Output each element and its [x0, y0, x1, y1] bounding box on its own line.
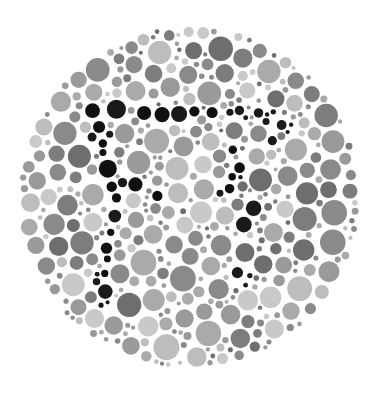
mosaic-dot: [126, 193, 141, 208]
figure-dot: [99, 160, 117, 178]
mosaic-dot: [197, 225, 201, 229]
mosaic-dot: [315, 285, 329, 299]
mosaic-dot: [164, 182, 169, 187]
mosaic-dot: [85, 84, 102, 101]
mosaic-dot: [315, 176, 322, 183]
mosaic-dot: [136, 138, 143, 145]
mosaic-dot: [200, 246, 207, 253]
mosaic-dot: [207, 360, 212, 365]
mosaic-dot: [265, 85, 271, 91]
figure-dot: [171, 106, 187, 122]
mosaic-dot: [164, 308, 170, 314]
mosaic-dot: [216, 344, 224, 352]
mosaic-dot: [225, 226, 229, 230]
figure-dot: [93, 121, 105, 133]
mosaic-dot: [277, 132, 285, 140]
mosaic-dot: [287, 72, 304, 89]
mosaic-dot: [257, 228, 263, 234]
mosaic-dot: [241, 315, 254, 328]
mosaic-dot: [319, 261, 340, 282]
mosaic-dot: [241, 136, 248, 143]
mosaic-dot: [274, 312, 280, 318]
mosaic-dot: [159, 317, 172, 330]
mosaic-dot: [123, 74, 131, 82]
mosaic-dot: [197, 27, 209, 39]
mosaic-dot: [255, 221, 259, 225]
figure-dot: [254, 108, 263, 117]
mosaic-dot: [85, 309, 104, 328]
mosaic-dot: [123, 331, 128, 336]
mosaic-dot: [175, 309, 193, 327]
mosaic-dot: [104, 316, 123, 335]
mosaic-dot: [116, 174, 120, 178]
mosaic-dot: [299, 117, 310, 128]
mosaic-dot: [247, 38, 252, 43]
mosaic-dot: [287, 276, 312, 301]
mosaic-dot: [263, 345, 267, 349]
mosaic-dot: [217, 121, 223, 127]
mosaic-dot: [313, 255, 318, 260]
mosaic-dot: [250, 126, 266, 142]
mosaic-dot: [352, 200, 357, 205]
mosaic-dot: [27, 237, 44, 254]
mosaic-dot: [202, 59, 214, 71]
mosaic-dot: [213, 197, 218, 202]
figure-dot: [107, 100, 126, 119]
mosaic-dot: [97, 264, 102, 269]
mosaic-dot: [228, 101, 234, 107]
mosaic-dot: [296, 182, 318, 204]
mosaic-dot: [67, 186, 73, 192]
mosaic-dot: [239, 82, 255, 98]
mosaic-dot: [127, 244, 135, 252]
mosaic-dot: [155, 29, 160, 34]
mosaic-dot: [76, 317, 83, 324]
mosaic-dot: [257, 195, 262, 200]
mosaic-dot: [236, 81, 240, 85]
mosaic-dot: [267, 90, 284, 107]
mosaic-dot: [209, 279, 229, 299]
mosaic-dot: [158, 221, 162, 225]
mosaic-dot: [293, 260, 298, 265]
mosaic-dot: [65, 310, 70, 315]
mosaic-dot: [90, 330, 97, 337]
mosaic-dot: [48, 146, 64, 162]
mosaic-dot: [342, 184, 357, 199]
figure-dot: [225, 184, 234, 193]
mosaic-dot: [166, 291, 177, 302]
mosaic-dot: [208, 299, 214, 305]
mosaic-dot: [120, 227, 132, 239]
figure-dot: [106, 300, 110, 304]
figure-dot: [207, 107, 218, 118]
mosaic-dot: [107, 49, 114, 56]
mosaic-dot: [257, 246, 262, 251]
ishihara-plate-container: [0, 0, 381, 393]
mosaic-dot: [184, 27, 194, 37]
mosaic-dot: [196, 303, 212, 319]
mosaic-dot: [145, 195, 149, 199]
mosaic-dot: [239, 193, 244, 198]
mosaic-dot: [87, 164, 97, 174]
mosaic-dot: [127, 151, 150, 174]
mosaic-dot: [138, 34, 150, 46]
mosaic-dot: [320, 230, 346, 256]
mosaic-dot: [308, 127, 321, 140]
mosaic-dot: [163, 225, 169, 231]
mosaic-dot: [231, 199, 243, 211]
mosaic-dot: [108, 122, 114, 128]
mosaic-dot: [45, 278, 51, 284]
mosaic-dot: [291, 114, 296, 119]
mosaic-dot: [257, 60, 280, 83]
mosaic-dot: [342, 252, 350, 260]
mosaic-dot: [115, 124, 134, 143]
mosaic-dot: [228, 347, 233, 352]
figure-dot: [234, 162, 245, 173]
mosaic-dot: [257, 320, 264, 327]
mosaic-dot: [94, 235, 99, 240]
mosaic-dot: [151, 35, 156, 40]
figure-dot: [106, 181, 116, 191]
mosaic-dot: [85, 291, 97, 303]
mosaic-dot: [278, 166, 298, 186]
mosaic-dot: [170, 266, 196, 292]
ishihara-plate-svg: [0, 0, 381, 393]
mosaic-dot: [144, 209, 148, 213]
